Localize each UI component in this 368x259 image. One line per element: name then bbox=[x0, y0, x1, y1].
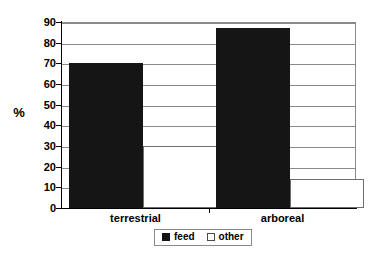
y-axis-tick-label: 40 bbox=[30, 120, 56, 131]
y-axis-tick-mark bbox=[56, 22, 62, 23]
y-axis-tick-labels: 9080706050403020100 bbox=[28, 0, 56, 259]
x-axis-category-label: terrestrial bbox=[62, 212, 209, 224]
legend-item-feed: feed bbox=[162, 232, 195, 242]
y-axis-tick-label: 70 bbox=[30, 58, 56, 69]
y-axis-tick-label: 20 bbox=[30, 161, 56, 172]
legend-label-feed: feed bbox=[174, 232, 195, 242]
gridline bbox=[62, 23, 355, 24]
y-axis-tick-label: 90 bbox=[30, 17, 56, 28]
y-axis-tick-mark bbox=[56, 43, 62, 44]
y-axis-tick-label: 50 bbox=[30, 99, 56, 110]
y-axis-tick-label: 0 bbox=[30, 203, 56, 214]
legend-label-other: other bbox=[219, 232, 244, 242]
bar-terrestrial-other bbox=[143, 146, 217, 208]
y-axis-tick-label: 30 bbox=[30, 141, 56, 152]
y-axis-tick-label: 10 bbox=[30, 182, 56, 193]
y-axis-title: % bbox=[8, 105, 30, 120]
bar-arboreal-other bbox=[290, 179, 364, 208]
plot-area bbox=[62, 22, 356, 208]
gridline bbox=[62, 44, 355, 45]
x-axis-category-label: arboreal bbox=[209, 212, 356, 224]
bar-arboreal-feed bbox=[216, 28, 290, 208]
y-axis-tick-mark bbox=[56, 125, 62, 126]
y-axis-tick-mark bbox=[56, 63, 62, 64]
y-axis-tick-mark bbox=[56, 167, 62, 168]
y-axis-tick-mark bbox=[56, 146, 62, 147]
y-axis-tick-mark bbox=[56, 84, 62, 85]
chart-legend: feedother bbox=[154, 229, 252, 246]
y-axis-tick-mark bbox=[56, 208, 62, 209]
y-axis-tick-label: 60 bbox=[30, 79, 56, 90]
bar-terrestrial-feed bbox=[69, 63, 143, 208]
legend-item-other: other bbox=[207, 232, 244, 242]
y-axis-tick-label: 80 bbox=[30, 37, 56, 48]
y-axis-tick-mark bbox=[56, 105, 62, 106]
y-axis-tick-mark bbox=[56, 187, 62, 188]
legend-swatch-other bbox=[207, 233, 215, 241]
legend-swatch-feed bbox=[162, 233, 170, 241]
x-axis-tick-mark bbox=[209, 209, 210, 213]
bar-chart: % 9080706050403020100 terrestrialarborea… bbox=[0, 0, 368, 259]
